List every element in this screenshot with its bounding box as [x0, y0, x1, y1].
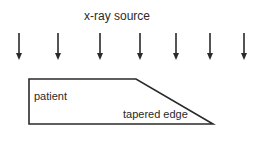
down-arrow-icon — [241, 33, 247, 60]
down-arrow-icon — [97, 33, 103, 60]
x-ray-arrows — [16, 33, 247, 60]
down-arrow-icon — [16, 33, 22, 60]
patient-label: patient — [34, 90, 67, 102]
down-arrow-icon — [207, 33, 213, 60]
down-arrow-icon — [137, 33, 143, 60]
tapered-edge-label: tapered edge — [123, 108, 188, 120]
down-arrow-icon — [55, 33, 61, 60]
down-arrow-icon — [173, 33, 179, 60]
diagram-canvas — [0, 0, 262, 146]
